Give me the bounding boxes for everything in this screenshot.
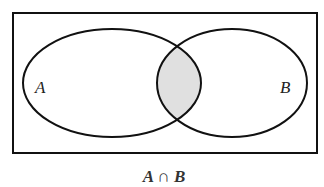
set-b-label: B (280, 78, 291, 97)
venn-diagram: A B A ∩ B (0, 0, 324, 187)
set-a-label: A (34, 78, 46, 97)
caption: A ∩ B (142, 167, 185, 186)
